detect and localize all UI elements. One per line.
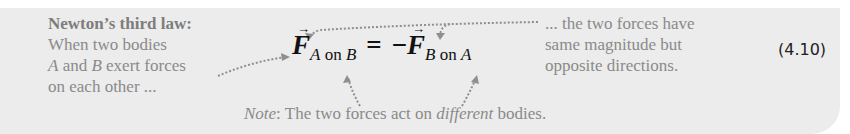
note-emphasis: different bbox=[436, 104, 493, 123]
left-text-line-3: on each other ... bbox=[48, 76, 157, 97]
sub-on: on bbox=[320, 45, 346, 64]
right-text-line-2: same magnitude but bbox=[545, 34, 682, 55]
equals-sign: = bbox=[366, 30, 381, 60]
sub-a: A bbox=[310, 45, 320, 64]
newtons-third-law-equation: FA on B=−FB on A bbox=[292, 30, 471, 65]
force-a-on-b-subscript: A on B bbox=[310, 45, 356, 64]
note-arrow-to-sub-B bbox=[348, 78, 360, 106]
sub-b: B bbox=[425, 45, 435, 64]
right-text-line-1: ... the two forces have bbox=[545, 13, 695, 34]
text-and: and bbox=[58, 56, 91, 75]
left-arrow-to-F-AB bbox=[218, 57, 286, 76]
note-text: : The two forces act on bbox=[276, 104, 436, 123]
force-b-on-a-vector: F bbox=[407, 30, 425, 60]
note-label: Note bbox=[244, 104, 276, 123]
note-line: Note: The two forces act on different bo… bbox=[244, 103, 546, 124]
force-a-on-b-vector: F bbox=[292, 30, 310, 60]
force-b-on-a-subscript: B on A bbox=[425, 45, 471, 64]
left-text-line-1: When two bodies bbox=[48, 34, 167, 55]
body-b-label: B bbox=[91, 56, 101, 75]
sub-on: on bbox=[435, 45, 461, 64]
sub-a: A bbox=[461, 45, 471, 64]
body-a-label: A bbox=[48, 56, 58, 75]
sub-b: B bbox=[346, 45, 356, 64]
left-text-line-2: A and B exert forces bbox=[48, 55, 186, 76]
right-text-line-3: opposite directions. bbox=[545, 55, 678, 76]
minus-sign: − bbox=[392, 30, 407, 60]
note-tail: bodies. bbox=[493, 104, 546, 123]
text-exert-forces: exert forces bbox=[102, 56, 186, 75]
equation-number: (4.10) bbox=[778, 40, 826, 59]
law-title: Newton’s third law: bbox=[48, 13, 192, 34]
